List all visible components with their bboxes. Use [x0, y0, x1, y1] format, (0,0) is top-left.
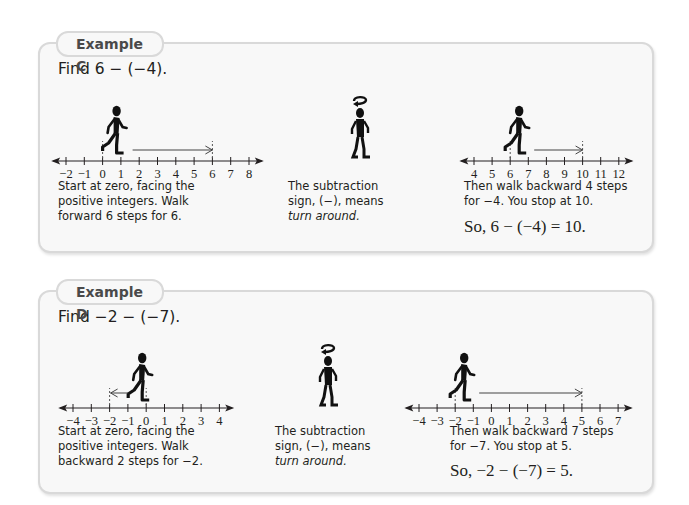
turn-around-person-icon: [320, 345, 338, 405]
text-line: sign, (−), means: [275, 439, 415, 454]
person-leg: [464, 380, 471, 400]
example-c-step2-text: The subtraction sign, (−), means turn ar…: [288, 179, 428, 224]
person-leg: [353, 137, 358, 157]
text-line: for −7. You stop at 5.: [450, 439, 640, 454]
walking-person-icon: [103, 106, 127, 153]
example-c-answer: So, 6 − (−4) = 10.: [464, 217, 586, 237]
text-line: Start at zero, facing the: [58, 179, 278, 194]
person-arm: [510, 119, 517, 133]
example-c-tab: Example C: [56, 31, 164, 57]
person-leg: [117, 133, 124, 153]
text-line: for −4. You stop at 10.: [464, 194, 654, 209]
person-torso: [324, 367, 332, 385]
person-leg: [321, 385, 326, 405]
text-line: positive integers. Walk: [58, 194, 278, 209]
example-d-tab: Example D: [56, 279, 164, 305]
person-arm: [133, 366, 140, 380]
person-leg: [128, 380, 141, 398]
text-line-italic: turn around.: [275, 454, 347, 468]
text-line: Then walk backward 7 steps: [450, 424, 640, 439]
person-arm: [108, 119, 115, 133]
example-d: Example D Find −2 − (−7). −4−3−2−101234−…: [38, 279, 652, 501]
walking-person-icon: [505, 106, 529, 153]
example-d-step1-text: Start at zero, facing the positive integ…: [58, 424, 278, 469]
person-leg: [362, 137, 370, 157]
text-line: sign, (−), means: [288, 194, 428, 209]
person-leg: [519, 133, 526, 153]
turn-arrowhead: [321, 349, 326, 355]
person-arm: [119, 120, 127, 128]
text-line: backward 2 steps for −2.: [58, 454, 278, 469]
text-line: The subtraction: [288, 179, 428, 194]
d-line3-tick-label: −3: [430, 414, 443, 428]
turn-arrowhead: [353, 101, 358, 107]
person-arm: [352, 121, 356, 134]
example-c: Example C Find 6 − (−4). −2−101234567845…: [38, 31, 652, 253]
person-arm: [466, 367, 474, 375]
text-line: Start at zero, facing the: [58, 424, 278, 439]
text-line: The subtraction: [275, 424, 415, 439]
person-head: [356, 108, 364, 118]
person-arm: [455, 366, 462, 380]
person-leg: [103, 133, 116, 151]
person-arm: [364, 121, 368, 133]
person-leg: [330, 385, 338, 405]
person-head: [460, 353, 468, 363]
person-arm: [320, 369, 324, 382]
text-line: forward 6 steps for 6.: [58, 209, 278, 224]
person-head: [112, 106, 120, 116]
text-line: positive integers. Walk: [58, 439, 278, 454]
example-d-step2-text: The subtraction sign, (−), means turn ar…: [275, 424, 415, 469]
person-head: [324, 356, 332, 366]
text-line-italic: turn around.: [288, 209, 360, 223]
example-d-step3-text: Then walk backward 7 steps for −7. You s…: [450, 424, 640, 454]
person-arm: [332, 369, 336, 381]
turn-around-person-icon: [352, 97, 370, 157]
person-torso: [356, 119, 364, 137]
walking-person-icon: [128, 353, 152, 400]
walking-person-icon: [450, 353, 474, 400]
person-head: [138, 353, 146, 363]
example-c-step3-text: Then walk backward 4 steps for −4. You s…: [464, 179, 654, 209]
person-arm: [521, 120, 529, 128]
person-leg: [505, 133, 518, 151]
person-leg: [450, 380, 463, 398]
person-head: [515, 106, 523, 116]
person-arm: [144, 367, 152, 375]
example-d-answer: So, −2 − (−7) = 5.: [450, 461, 573, 481]
text-line: Then walk backward 4 steps: [464, 179, 654, 194]
example-c-step1-text: Start at zero, facing the positive integ…: [58, 179, 278, 224]
